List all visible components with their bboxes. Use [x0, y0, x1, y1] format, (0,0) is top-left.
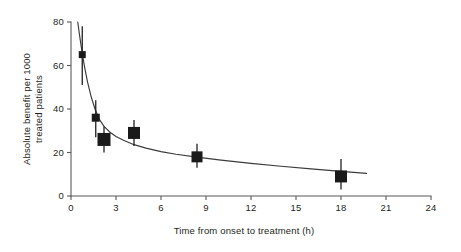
y-tick-label-0: 0: [59, 190, 64, 201]
x-axis-title: Time from onset to treatment (h): [174, 225, 315, 236]
x-tick-label-21: 21: [381, 202, 392, 213]
y-tick-label-20: 20: [53, 147, 64, 158]
x-tick-label-24: 24: [426, 202, 437, 213]
x-tick-label-18: 18: [336, 202, 347, 213]
x-tick-label-0: 0: [68, 202, 73, 213]
y-tick-label-60: 60: [53, 60, 64, 71]
fitted-curve: [78, 22, 367, 173]
data-markers: [79, 51, 347, 182]
fit-curve: [78, 22, 367, 173]
x-tick-label-12: 12: [246, 202, 257, 213]
x-tick-label-15: 15: [291, 202, 302, 213]
x-tick-label-3: 3: [113, 202, 118, 213]
data-point-4: [128, 127, 140, 139]
data-point-1: [79, 51, 86, 58]
y-axis-title-line-2: treated patients: [33, 75, 44, 143]
error-bars: [82, 26, 341, 189]
x-tick-label-6: 6: [158, 202, 163, 213]
data-point-6: [335, 170, 347, 182]
axis-labels: Time from onset to treatment (h)Absolute…: [21, 53, 314, 236]
scatter-plot: 02040608003691215182124 Time from onset …: [0, 0, 461, 252]
data-point-2: [92, 114, 100, 122]
chart-figure: 02040608003691215182124 Time from onset …: [0, 0, 461, 252]
x-tick-label-9: 9: [203, 202, 208, 213]
y-tick-label-40: 40: [53, 103, 64, 114]
data-point-3: [98, 133, 111, 146]
y-axis-title-line-1: Absolute benefit per 1000: [21, 53, 32, 165]
y-tick-label-80: 80: [53, 16, 64, 27]
axes: 02040608003691215182124: [53, 16, 436, 213]
data-point-5: [192, 151, 203, 162]
